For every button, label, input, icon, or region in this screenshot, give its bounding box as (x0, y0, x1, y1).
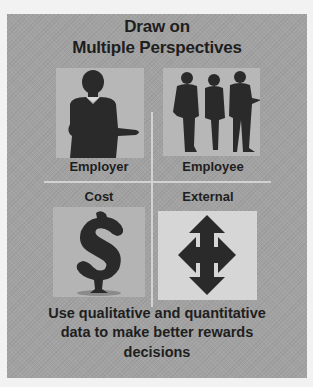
title-line-2: Multiple Perspectives (7, 38, 307, 58)
horizontal-divider (44, 181, 271, 183)
quadrant-label-cost: Cost (53, 189, 145, 204)
quadrant-label-employee: Employee (163, 159, 263, 174)
title-line-1: Draw on (7, 17, 307, 37)
footer-line-3: decisions (7, 343, 307, 362)
cost-image (53, 207, 145, 297)
dollar-sign-icon (53, 207, 145, 297)
quadrant-label-external: External (158, 189, 258, 204)
footer-line-1: Use qualitative and quantitative (7, 304, 307, 323)
slide-panel: Draw on Multiple Perspectives Employer E… (7, 14, 307, 378)
vertical-divider (151, 112, 153, 307)
employee-image (163, 68, 260, 156)
external-image (158, 211, 257, 300)
quadrant-label-employer: Employer (53, 159, 145, 174)
four-way-arrow-icon (158, 211, 257, 300)
employer-image (56, 68, 144, 158)
footer-line-2: data to make better rewards (7, 323, 307, 342)
business-people-group-silhouette-icon (163, 68, 260, 156)
businesswoman-silhouette-icon (56, 68, 144, 158)
